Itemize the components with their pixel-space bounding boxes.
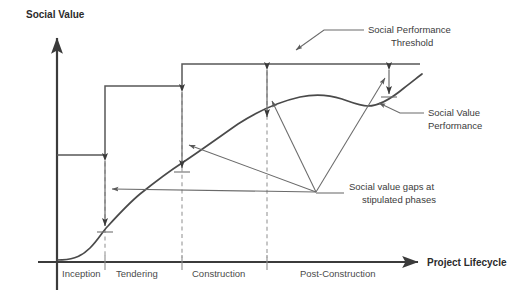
- threshold-callout-leader: [296, 30, 364, 50]
- y-axis-label: Social Value: [26, 9, 85, 20]
- phase-label-post-construction: Post-Construction: [300, 268, 376, 279]
- gaps-label-line2: stipulated phases: [362, 194, 436, 205]
- x-axis-label: Project Lifecycle: [427, 257, 507, 268]
- social-value-diagram: Social Value Project Lifecycle Social Pe…: [0, 0, 522, 305]
- gaps-label-line1: Social value gaps at: [349, 181, 434, 192]
- diagram-canvas: Social Value Project Lifecycle Social Pe…: [0, 0, 522, 305]
- performance-callout-leader: [379, 103, 424, 113]
- performance-label-line1: Social Value: [428, 107, 480, 118]
- phase-label-construction: Construction: [192, 268, 245, 279]
- threshold-label-line1: Social Performance: [368, 24, 451, 35]
- phase-label-tendering: Tendering: [116, 268, 158, 279]
- performance-label-line2: Performance: [428, 120, 482, 131]
- gap-leader-group: [112, 78, 385, 193]
- threshold-label-line2: Threshold: [391, 37, 433, 48]
- axis-group: [38, 38, 418, 290]
- phase-label-inception: Inception: [62, 268, 101, 279]
- gap-arrow-group: [97, 70, 397, 232]
